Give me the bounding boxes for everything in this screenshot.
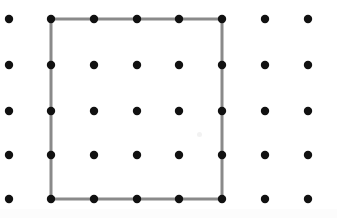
- grid-dot[interactable]: [47, 15, 55, 23]
- grid-dot[interactable]: [90, 107, 98, 115]
- grid-dot[interactable]: [175, 61, 183, 69]
- grid-dot[interactable]: [47, 195, 55, 203]
- center-smudge-artifact: [197, 132, 202, 137]
- grid-dot[interactable]: [47, 61, 55, 69]
- scan-noise-strip: [0, 209, 337, 218]
- grid-dot[interactable]: [218, 195, 226, 203]
- grid-dot[interactable]: [5, 107, 13, 115]
- grid-dot[interactable]: [218, 15, 226, 23]
- grid-dot[interactable]: [304, 61, 312, 69]
- grid-dot[interactable]: [218, 107, 226, 115]
- grid-dot[interactable]: [175, 15, 183, 23]
- grid-dot[interactable]: [133, 61, 141, 69]
- grid-dot[interactable]: [90, 151, 98, 159]
- grid-dot[interactable]: [218, 151, 226, 159]
- grid-dot[interactable]: [133, 195, 141, 203]
- grid-dot[interactable]: [261, 15, 269, 23]
- grid-dot[interactable]: [304, 107, 312, 115]
- grid-dot[interactable]: [304, 15, 312, 23]
- grid-dot[interactable]: [175, 195, 183, 203]
- grid-dot[interactable]: [5, 15, 13, 23]
- grid-dot[interactable]: [47, 151, 55, 159]
- grid-dot[interactable]: [175, 107, 183, 115]
- grid-dot[interactable]: [133, 151, 141, 159]
- grid-dot[interactable]: [261, 151, 269, 159]
- grid-dot[interactable]: [90, 15, 98, 23]
- grid-dot[interactable]: [261, 107, 269, 115]
- grid-dot[interactable]: [133, 107, 141, 115]
- geoboard-canvas: [0, 0, 337, 218]
- grid-dot[interactable]: [90, 61, 98, 69]
- grid-dot[interactable]: [5, 61, 13, 69]
- grid-dot[interactable]: [304, 195, 312, 203]
- grid-dot[interactable]: [218, 61, 226, 69]
- grid-dot[interactable]: [261, 195, 269, 203]
- grid-dot[interactable]: [304, 151, 312, 159]
- grid-dot[interactable]: [5, 151, 13, 159]
- grid-dot[interactable]: [47, 107, 55, 115]
- grid-dot[interactable]: [90, 195, 98, 203]
- grid-dot[interactable]: [175, 151, 183, 159]
- grid-dot[interactable]: [5, 195, 13, 203]
- grid-dot[interactable]: [133, 15, 141, 23]
- grid-dot[interactable]: [261, 61, 269, 69]
- dot-grid-board: [0, 0, 337, 218]
